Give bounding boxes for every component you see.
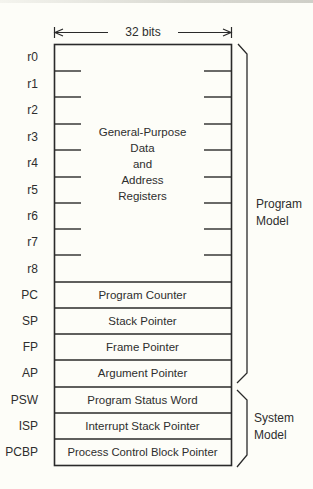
register-desc-ap: Argument Pointer	[54, 366, 231, 380]
program-model-label-line1: Program	[256, 196, 302, 213]
program-model-label-line2: Model	[256, 213, 302, 230]
width-label: 32 bits	[108, 25, 178, 39]
register-label-pc: PC	[0, 288, 38, 302]
register-label-r5: r5	[0, 183, 38, 197]
register-label-sp: SP	[0, 314, 38, 328]
register-desc-sp: Stack Pointer	[54, 314, 231, 328]
gp-line-4: Address	[54, 172, 231, 188]
register-label-r7: r7	[0, 235, 38, 249]
register-desc-psw: Program Status Word	[54, 393, 231, 407]
system-model-brace	[237, 390, 247, 467]
gp-line-2: Data	[54, 140, 231, 156]
special-register-dividers	[55, 282, 231, 439]
register-label-r4: r4	[0, 156, 38, 170]
gp-line-5: Registers	[54, 188, 231, 204]
system-model-label-line2: Model	[254, 427, 294, 444]
gp-line-1: General-Purpose	[54, 124, 231, 140]
register-label-r3: r3	[0, 130, 38, 144]
program-model-label: Program Model	[256, 196, 302, 230]
register-desc-pcbp: Process Control Block Pointer	[54, 445, 231, 459]
register-label-pcbp: PCBP	[0, 445, 38, 459]
gp-line-3: and	[54, 156, 231, 172]
register-label-r8: r8	[0, 262, 38, 276]
register-desc-fp: Frame Pointer	[54, 340, 231, 354]
register-label-r2: r2	[0, 103, 38, 117]
register-desc-isp: Interrupt Stack Pointer	[54, 419, 231, 433]
register-desc-pc: Program Counter	[54, 288, 231, 302]
register-label-r1: r1	[0, 77, 38, 91]
program-model-brace	[237, 44, 247, 383]
register-label-fp: FP	[0, 340, 38, 354]
general-purpose-registers-label: General-Purpose Data and Address Registe…	[54, 124, 231, 204]
system-model-label-line1: System	[254, 410, 294, 427]
register-label-psw: PSW	[0, 393, 38, 407]
register-label-r0: r0	[0, 50, 38, 64]
register-label-isp: ISP	[0, 419, 38, 433]
register-label-ap: AP	[0, 366, 38, 380]
register-label-r6: r6	[0, 209, 38, 223]
system-model-label: System Model	[254, 410, 294, 444]
